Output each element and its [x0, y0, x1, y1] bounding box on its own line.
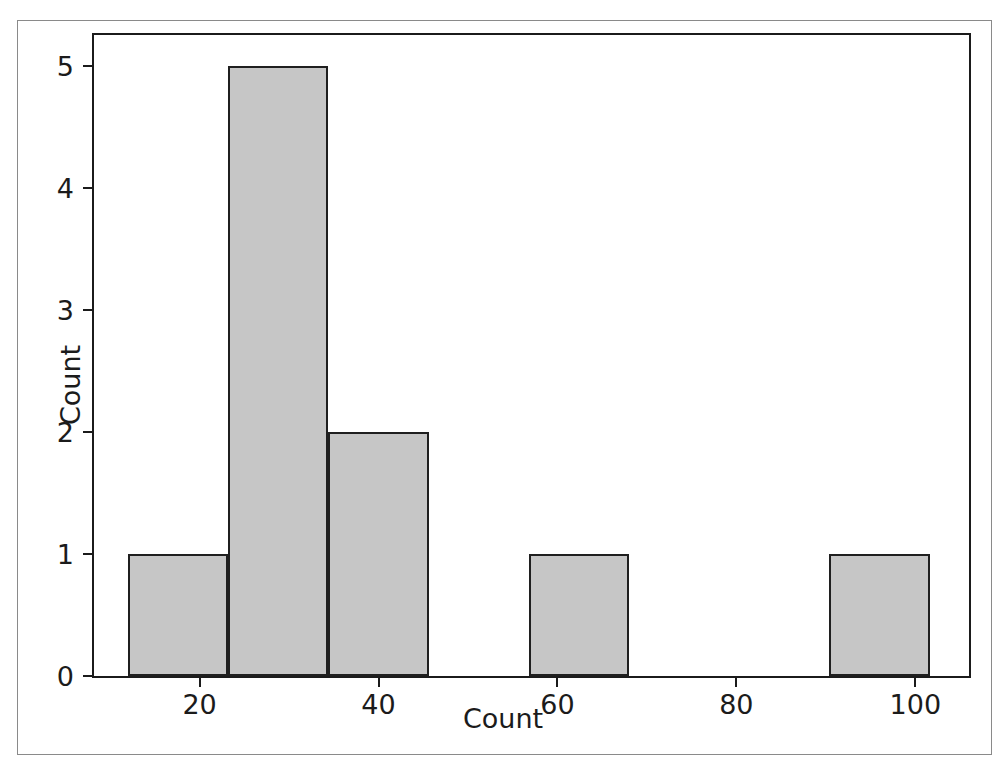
histogram-bar — [328, 432, 428, 676]
x-axis-tick-label: 80 — [719, 691, 753, 718]
histogram-bar — [829, 554, 929, 676]
y-axis-label: Count — [55, 345, 86, 425]
x-axis-tick — [199, 676, 201, 687]
histogram-bars — [94, 35, 969, 676]
histogram-bar — [529, 554, 629, 676]
y-axis-tick-label: 2 — [57, 418, 74, 445]
figure-root: Count Count 012345 20406080100 — [0, 0, 1006, 770]
x-axis-tick-label: 40 — [361, 691, 395, 718]
x-axis-tick-label: 100 — [890, 691, 942, 718]
y-axis-tick: 4 — [83, 187, 94, 189]
y-axis-tick: 3 — [83, 309, 94, 311]
x-axis-tick — [735, 676, 737, 687]
y-axis-tick-label: 0 — [57, 663, 74, 690]
x-axis-tick — [378, 676, 380, 687]
y-axis-tick: 2 — [83, 431, 94, 433]
y-axis-tick-label: 5 — [57, 52, 74, 79]
x-axis-label: Count — [463, 703, 543, 734]
y-axis-tick-label: 1 — [57, 540, 74, 567]
histogram-bar — [128, 554, 228, 676]
x-axis-tick-label: 60 — [540, 691, 574, 718]
y-axis-tick-label: 3 — [57, 296, 74, 323]
y-axis-tick: 1 — [83, 553, 94, 555]
x-axis-tick-label: 20 — [182, 691, 216, 718]
histogram-bar — [228, 66, 328, 676]
plot-area: 012345 20406080100 — [92, 33, 971, 678]
y-axis-tick: 5 — [83, 65, 94, 67]
y-axis-tick: 0 — [83, 675, 94, 677]
x-axis-tick — [556, 676, 558, 687]
x-axis-tick — [914, 676, 916, 687]
y-axis-tick-label: 4 — [57, 174, 74, 201]
